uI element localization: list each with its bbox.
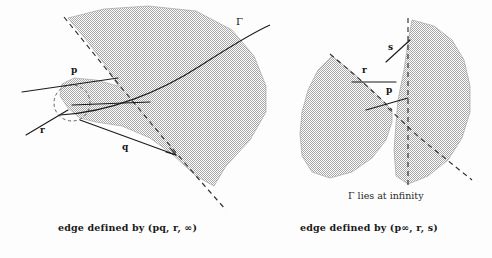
- left-edge-r: [26, 110, 68, 135]
- gamma-infinity-note: Γ lies at infinity: [348, 190, 424, 201]
- caption-right: edge defined by (p∞, r, s): [300, 222, 438, 233]
- caption-left: edge defined by (pq, r, ∞): [58, 222, 197, 233]
- left-panel-graphic: p r q Γ: [22, 6, 270, 210]
- right-label-p: p: [386, 85, 392, 95]
- right-shaded-region-left: [300, 56, 392, 178]
- left-label-p: p: [71, 65, 77, 75]
- left-shaded-region: [60, 6, 266, 186]
- figure-canvas: p r q Γ s r p: [0, 0, 492, 258]
- right-label-r: r: [362, 65, 367, 75]
- left-label-r: r: [40, 125, 45, 135]
- left-label-q: q: [122, 142, 129, 152]
- figure-root: p r q Γ s r p: [0, 0, 492, 258]
- right-panel-graphic: s r p: [300, 18, 472, 186]
- left-label-gamma: Γ: [236, 16, 243, 27]
- right-label-s: s: [388, 42, 393, 52]
